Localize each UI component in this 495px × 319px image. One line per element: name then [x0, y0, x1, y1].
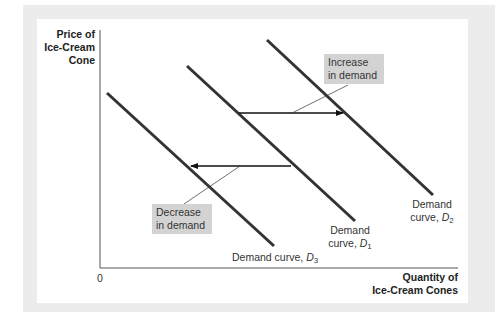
y-axis-label-line: Price of — [30, 28, 95, 41]
y-axis-label-line: Ice-Cream — [30, 41, 95, 54]
x-axis-label: Quantity of Ice-Cream Cones — [340, 271, 458, 297]
demand-curve-d1-label: Demand curve, D1 — [320, 224, 380, 253]
y-axis-label-line: Cone — [30, 54, 95, 67]
increase-in-demand-callout: Increase in demand — [324, 54, 384, 84]
callout-line: in demand — [328, 69, 380, 82]
curve-label-line: Demand — [320, 224, 380, 237]
curve-subscript: 1 — [367, 242, 371, 251]
y-axis-label: Price of Ice-Cream Cone — [30, 28, 95, 67]
decrease-in-demand-callout: Decrease in demand — [152, 204, 212, 234]
curve-label-line: curve, D1 — [320, 237, 380, 253]
curve-variable: D — [306, 251, 314, 263]
curve-label-text: curve, — [410, 211, 442, 223]
curve-label-line: curve, D2 — [402, 211, 462, 227]
curve-label-text: Demand curve, — [232, 251, 306, 263]
origin-label: 0 — [97, 272, 103, 285]
curve-label-text: curve, — [328, 237, 360, 249]
demand-curve-d2-label: Demand curve, D2 — [402, 198, 462, 227]
curve-subscript: 3 — [314, 256, 318, 265]
x-axis-label-line: Quantity of — [340, 271, 458, 284]
callout-line: in demand — [156, 219, 208, 232]
callout-line: Increase — [328, 56, 380, 69]
x-axis-label-line: Ice-Cream Cones — [340, 284, 458, 297]
curve-subscript: 2 — [449, 216, 453, 225]
curve-label-line: Demand — [402, 198, 462, 211]
demand-curve-d1 — [187, 66, 355, 221]
callout-line: Decrease — [156, 206, 208, 219]
demand-curve-d3-label: Demand curve, D3 — [232, 251, 318, 267]
